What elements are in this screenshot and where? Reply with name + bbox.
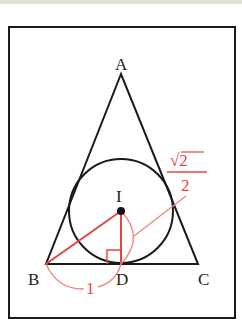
label-i: I (116, 187, 122, 206)
geometry-figure: A I B D C 1 √2 2 (0, 0, 242, 331)
label-d: D (116, 270, 128, 289)
label-bd-length: 1 (86, 279, 95, 298)
bd-brace-arc-left (46, 264, 84, 289)
label-id-denominator: 2 (181, 176, 190, 195)
id-brace-arc (121, 211, 134, 264)
label-a: A (115, 55, 128, 74)
label-b: B (28, 270, 39, 289)
label-c: C (198, 270, 209, 289)
label-id-numerator: √2 (170, 151, 188, 170)
center-point-i (117, 207, 125, 215)
